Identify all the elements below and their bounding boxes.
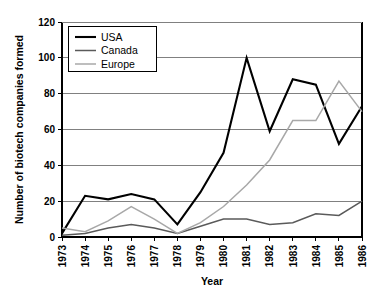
y-tick-label: 100 [38, 52, 55, 63]
y-tick-label: 0 [49, 232, 55, 243]
x-tick-label: 1975 [103, 245, 114, 268]
legend-label-europe: Europe [101, 58, 135, 70]
x-tick-label: 1973 [57, 245, 68, 268]
series-line-usa [62, 58, 362, 234]
x-tick-label: 1979 [195, 245, 206, 268]
x-tick-label: 1982 [264, 245, 275, 268]
x-tick-label: 1977 [149, 245, 160, 268]
series-line-canada [62, 201, 362, 235]
y-tick-label: 60 [44, 124, 56, 135]
chart-legend: USACanadaEurope [68, 26, 156, 71]
x-tick-label: 1984 [311, 245, 322, 268]
x-tick-label: 1974 [80, 245, 91, 268]
x-tick-label: 1978 [172, 245, 183, 268]
y-tick-label: 80 [44, 88, 56, 99]
legend-label-usa: USA [101, 31, 123, 43]
x-tick-label: 1985 [334, 245, 345, 268]
y-tick-label: 120 [38, 17, 55, 28]
series-line-europe [62, 81, 362, 233]
y-tick-labels-group: 020406080100120 [38, 17, 62, 243]
line-chart: 020406080100120 197319741975197619771978… [0, 0, 384, 293]
x-tick-label: 1980 [218, 245, 229, 268]
y-tick-label: 20 [44, 196, 56, 207]
x-tick-label: 1981 [241, 245, 252, 268]
x-tick-label: 1983 [288, 245, 299, 268]
y-tick-label: 40 [44, 160, 56, 171]
data-series-group [62, 58, 362, 235]
x-tick-label: 1986 [357, 245, 368, 268]
chart-container: 020406080100120 197319741975197619771978… [0, 0, 384, 293]
x-tick-label: 1976 [126, 245, 137, 268]
legend-label-canada: Canada [101, 44, 138, 56]
x-tick-labels-group: 1973197419751976197719781979198019811982… [57, 237, 368, 267]
x-axis-title: Year [201, 275, 223, 287]
y-axis-title: Number of biotech companies formed [13, 35, 25, 224]
